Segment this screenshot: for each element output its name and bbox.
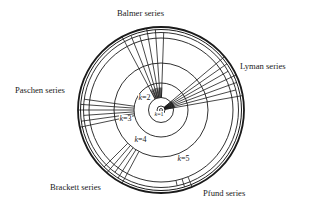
orbit-label-k5: k=5 [177, 155, 190, 163]
transition-line [104, 143, 128, 167]
paschen-series-label: Paschen series [15, 86, 65, 95]
brackett-series-label: Brackett series [50, 183, 101, 192]
orbit-label-k1: k=1 [154, 111, 164, 117]
hydrogen-spectral-series-diagram [0, 0, 311, 208]
orbit-label-k4: k=4 [134, 136, 147, 144]
orbit-label-k3: k=3 [119, 115, 132, 123]
pfund-series-label: Pfund series [203, 189, 245, 198]
orbit-label-k2: k=2 [138, 94, 151, 102]
transition-line [165, 82, 237, 108]
lyman-series-label: Lyman series [240, 62, 286, 71]
transition-line [122, 37, 155, 99]
balmer-series-label: Balmer series [117, 9, 164, 18]
orbit-k2 [149, 98, 174, 123]
transition-line [164, 71, 228, 108]
orbit-k3 [134, 83, 188, 137]
transition-line [176, 180, 177, 185]
transition-line [182, 179, 184, 187]
